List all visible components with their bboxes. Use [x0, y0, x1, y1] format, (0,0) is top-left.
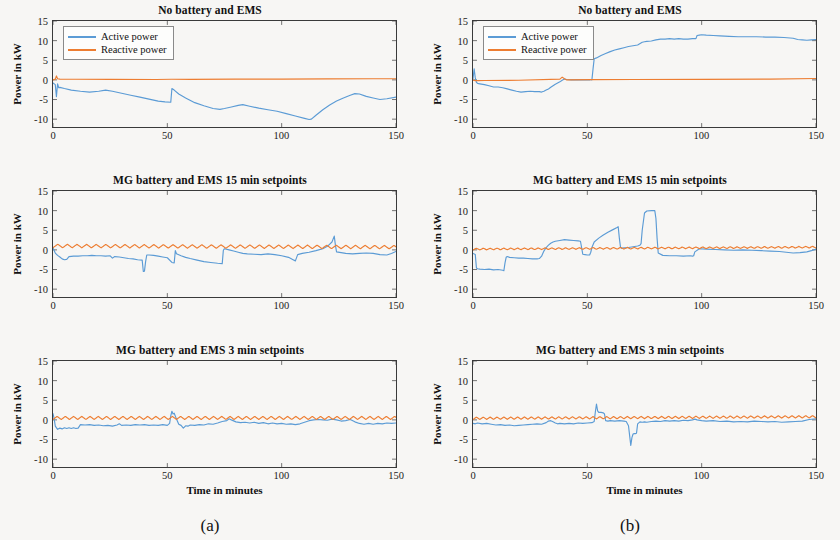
x-tick-label: 0: [470, 300, 475, 311]
y-tick-label: 10: [38, 35, 49, 46]
figure-column-a: No battery and EMS Power in kW 15 10 5 0…: [0, 0, 420, 540]
legend-row-reactive: Reactive power: [68, 43, 167, 56]
y-tick-label: 0: [43, 244, 48, 255]
y-axis-label: Power in kW: [431, 14, 443, 134]
panel-b-2: MG battery and EMS 3 min setpoints Power…: [420, 340, 840, 500]
x-tick-label: 50: [582, 130, 593, 141]
y-tick-label: 0: [43, 414, 48, 425]
plot-area: Power in kW 15 10 5 0 -5 -10 0 50 100 15…: [52, 360, 397, 468]
x-axis-label: Time in minutes: [606, 484, 682, 496]
x-tick-label: 50: [162, 130, 173, 141]
figure-column-b: No battery and EMS Power in kW 15 10 5 0…: [420, 0, 840, 540]
y-tick-label: 0: [43, 74, 48, 85]
plot-area: Power in kW 15 10 5 0 -5 -10 0 50 100 15…: [52, 190, 397, 298]
x-tick-label: 100: [694, 300, 710, 311]
x-tick-label: 50: [162, 300, 173, 311]
y-axis-label: Power in kW: [11, 184, 23, 304]
y-tick-label: 15: [38, 186, 49, 197]
y-tick-label: 15: [458, 356, 469, 367]
x-tick-label: 100: [694, 130, 710, 141]
panel-title: MG battery and EMS 15 min setpoints: [420, 174, 840, 186]
x-tick-label: 150: [388, 300, 404, 311]
x-axis-label: Time in minutes: [186, 484, 262, 496]
y-tick-label: 15: [458, 186, 469, 197]
panel-title: MG battery and EMS 15 min setpoints: [0, 174, 420, 186]
y-tick-label: 15: [38, 356, 49, 367]
panel-a-0: No battery and EMS Power in kW 15 10 5 0…: [0, 0, 420, 170]
x-tick-label: 150: [808, 300, 824, 311]
x-tick-label: 150: [388, 470, 404, 481]
x-tick-label: 0: [470, 130, 475, 141]
subfigure-caption-b: (b): [420, 516, 840, 536]
x-tick-label: 150: [808, 130, 824, 141]
legend-label-active: Active power: [101, 31, 158, 42]
y-tick-label: -10: [34, 114, 48, 125]
panel-b-1: MG battery and EMS 15 min setpoints Powe…: [420, 170, 840, 340]
x-tick-label: 150: [388, 130, 404, 141]
y-tick-label: -5: [459, 434, 468, 445]
x-tick-label: 50: [582, 470, 593, 481]
legend-row-active: Active power: [68, 30, 167, 43]
x-tick-label: 0: [50, 300, 55, 311]
legend-label-reactive: Reactive power: [521, 44, 587, 55]
panel-title: No battery and EMS: [420, 4, 840, 16]
x-tick-label: 100: [694, 470, 710, 481]
legend-swatch-active-icon: [68, 36, 96, 38]
y-tick-label: 10: [458, 35, 469, 46]
y-tick-label: -5: [459, 264, 468, 275]
panel-title: No battery and EMS: [0, 4, 420, 16]
legend-row-reactive: Reactive power: [488, 43, 587, 56]
plot-area: Power in kW 15 10 5 0 -5 -10 0 50 100 15…: [472, 360, 817, 468]
panel-title: MG battery and EMS 3 min setpoints: [420, 344, 840, 356]
panel-b-0: No battery and EMS Power in kW 15 10 5 0…: [420, 0, 840, 170]
y-axis-label: Power in kW: [431, 184, 443, 304]
y-tick-label: 5: [43, 395, 48, 406]
y-tick-label: 10: [38, 375, 49, 386]
y-tick-label: -10: [454, 284, 468, 295]
y-tick-label: 5: [463, 225, 468, 236]
plot-area: Power in kW 15 10 5 0 -5 -10 0 50 100 15…: [472, 20, 817, 128]
x-tick-label: 0: [470, 470, 475, 481]
x-tick-label: 0: [50, 470, 55, 481]
series-canvas: [473, 191, 816, 297]
y-tick-label: 15: [38, 16, 49, 27]
legend-label-active: Active power: [521, 31, 578, 42]
y-tick-label: -5: [459, 94, 468, 105]
legend: Active power Reactive power: [63, 26, 174, 60]
legend-swatch-reactive-icon: [68, 49, 96, 51]
y-tick-label: 10: [458, 375, 469, 386]
y-tick-label: -10: [34, 454, 48, 465]
legend-label-reactive: Reactive power: [101, 44, 167, 55]
y-axis-label: Power in kW: [11, 354, 23, 474]
y-tick-label: 0: [463, 74, 468, 85]
panel-a-2: MG battery and EMS 3 min setpoints Power…: [0, 340, 420, 500]
legend-swatch-active-icon: [488, 36, 516, 38]
y-tick-label: -10: [454, 114, 468, 125]
y-tick-label: -5: [39, 94, 48, 105]
plot-area: Power in kW 15 10 5 0 -5 -10 0 50 100 15…: [52, 20, 397, 128]
legend: Active power Reactive power: [483, 26, 594, 60]
subfigure-caption-a: (a): [0, 516, 420, 536]
y-tick-label: 5: [43, 225, 48, 236]
figure-root: No battery and EMS Power in kW 15 10 5 0…: [0, 0, 840, 540]
x-tick-label: 100: [274, 300, 290, 311]
x-tick-label: 100: [274, 470, 290, 481]
series-canvas: [53, 191, 396, 297]
y-tick-label: -5: [39, 434, 48, 445]
x-tick-label: 50: [582, 300, 593, 311]
y-tick-label: 15: [458, 16, 469, 27]
y-axis-label: Power in kW: [11, 14, 23, 134]
x-tick-label: 50: [162, 470, 173, 481]
series-canvas: [473, 361, 816, 467]
x-tick-label: 100: [274, 130, 290, 141]
y-tick-label: 5: [43, 55, 48, 66]
y-tick-label: 0: [463, 414, 468, 425]
y-tick-label: 0: [463, 244, 468, 255]
legend-row-active: Active power: [488, 30, 587, 43]
legend-swatch-reactive-icon: [488, 49, 516, 51]
y-tick-label: -5: [39, 264, 48, 275]
y-tick-label: 5: [463, 55, 468, 66]
y-tick-label: -10: [34, 284, 48, 295]
y-tick-label: 10: [458, 205, 469, 216]
plot-area: Power in kW 15 10 5 0 -5 -10 0 50 100 15…: [472, 190, 817, 298]
